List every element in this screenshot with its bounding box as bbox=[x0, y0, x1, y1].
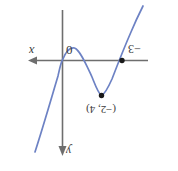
y-axis-label: y bbox=[66, 145, 71, 157]
x-axis-label: x bbox=[29, 45, 34, 57]
graph-figure: 0 −3 (−2, 4) x y bbox=[0, 0, 178, 171]
cubic-curve bbox=[35, 6, 143, 152]
x-axis bbox=[28, 57, 148, 65]
y-axis bbox=[59, 10, 67, 156]
vertex-coordinate-label: (−2, 4) bbox=[86, 104, 116, 115]
origin-label: 0 bbox=[66, 44, 73, 57]
point-x-intercept bbox=[119, 58, 124, 63]
point-vertex bbox=[99, 93, 104, 98]
graph-canvas bbox=[0, 0, 178, 171]
x-intercept-label: −3 bbox=[128, 43, 141, 55]
